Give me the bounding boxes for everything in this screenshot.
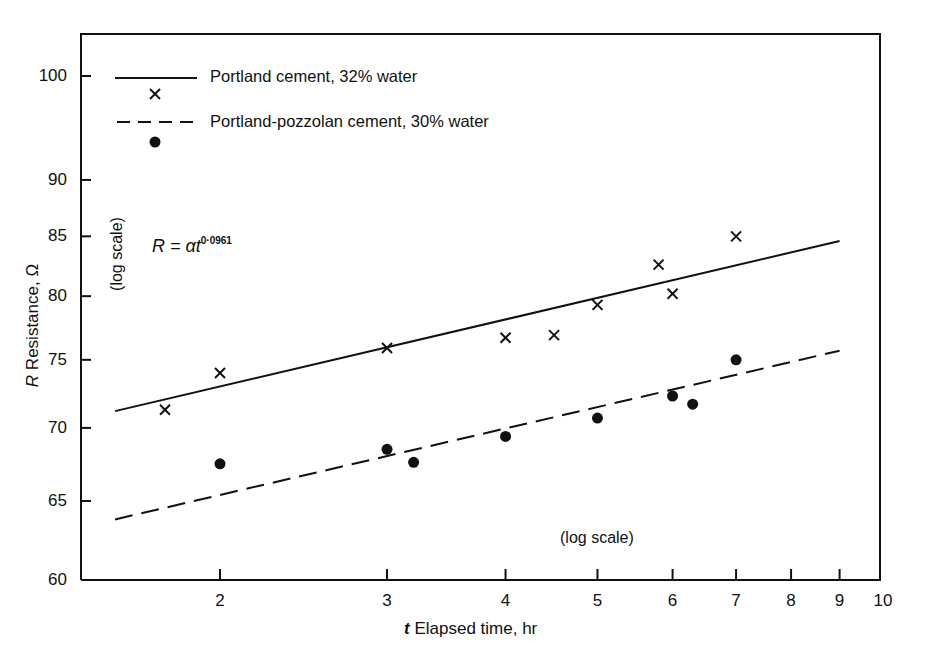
x-tick-label: 3 [367, 592, 407, 609]
y-axis-label: Resistance, Ω [23, 264, 42, 370]
y-scale-note: (log scale) [109, 209, 125, 299]
equation-lhs: R = αt [152, 236, 201, 256]
legend-dot-marker [150, 137, 161, 148]
y-tick-label: 65 [7, 492, 67, 509]
fit-lines [115, 241, 840, 519]
legend-label-portland: Portland cement, 32% water [210, 68, 417, 85]
data-point-dot [215, 458, 226, 469]
fit-equation: R = αt0·0961 [152, 236, 232, 255]
equation-exponent: 0·0961 [201, 235, 232, 246]
legend-glyphs [115, 78, 197, 148]
x-axis-label: Elapsed time, hr [414, 619, 537, 638]
y-axis-symbol: R [23, 375, 42, 387]
x-scale-note: (log scale) [560, 530, 634, 546]
legend-label-pozzolan: Portland-pozzolan cement, 30% water [210, 113, 489, 130]
data-point-dot [592, 413, 603, 424]
data-point-x [731, 231, 741, 241]
y-tick-label: 90 [7, 171, 67, 188]
x-tick-label: 8 [771, 592, 811, 609]
data-point-x [654, 260, 664, 270]
data-point-dot [382, 444, 393, 455]
data-point-x [668, 289, 678, 299]
x-tick-label: 7 [716, 592, 756, 609]
y-tick-label: 70 [7, 419, 67, 436]
y-tick-label: 100 [7, 67, 67, 84]
data-point-dot [408, 457, 419, 468]
data-point-dot [667, 391, 678, 402]
y-tick-label: 60 [7, 571, 67, 588]
data-point-dot [500, 431, 511, 442]
data-point-x [549, 330, 559, 340]
data-point-x [592, 300, 602, 310]
data-point-x [215, 368, 225, 378]
data-point-dot [731, 354, 742, 365]
legend-x-marker [150, 89, 160, 99]
data-point-dot [687, 399, 698, 410]
data-point-x [160, 405, 170, 415]
data-point-x [501, 333, 511, 343]
x-tick-label: 5 [577, 592, 617, 609]
x-tick-label: 10 [863, 592, 903, 609]
x-tick-label: 2 [200, 592, 240, 609]
data-points [160, 231, 742, 469]
fit-line-portland [115, 241, 840, 411]
x-tick-label: 4 [486, 592, 526, 609]
y-tick-label: 85 [7, 227, 67, 244]
x-tick-label: 6 [653, 592, 693, 609]
x-tick-label: 9 [820, 592, 860, 609]
x-axis-symbol: t [404, 619, 410, 638]
y-axis-title: R Resistance, Ω [24, 246, 41, 406]
x-axis-title: t Elapsed time, hr [404, 620, 537, 637]
chart-canvas [0, 0, 935, 668]
